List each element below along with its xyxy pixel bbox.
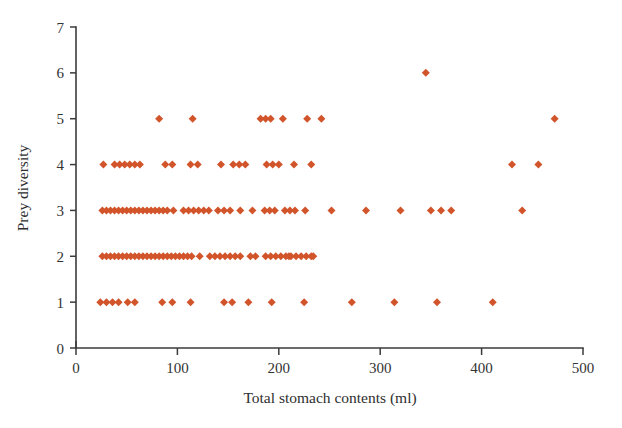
y-tick-label: 6 — [57, 65, 65, 81]
x-tick-label: 300 — [369, 360, 392, 376]
x-tick-label: 200 — [268, 360, 291, 376]
x-tick-label: 500 — [572, 360, 595, 376]
x-axis-title: Total stomach contents (ml) — [243, 389, 416, 407]
y-tick-label: 4 — [57, 157, 65, 173]
y-tick-label: 5 — [57, 111, 65, 127]
y-tick-label: 2 — [57, 249, 65, 265]
y-tick-label: 0 — [57, 341, 65, 357]
y-tick-label: 7 — [57, 20, 65, 36]
scatter-plot-figure: 01234567 0100200300400500 Total stomach … — [0, 0, 622, 428]
x-tick-label: 100 — [166, 360, 189, 376]
y-tick-label: 1 — [57, 295, 65, 311]
chart-background — [0, 0, 622, 428]
prey-diversity-scatter-chart: 01234567 0100200300400500 Total stomach … — [0, 0, 622, 428]
y-tick-label: 3 — [57, 203, 65, 219]
x-tick-label: 400 — [470, 360, 493, 376]
x-tick-label: 0 — [72, 360, 80, 376]
y-axis-title: Prey diversity — [14, 144, 31, 231]
